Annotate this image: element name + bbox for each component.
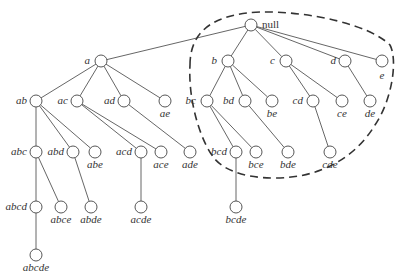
node-label: ce bbox=[337, 107, 347, 119]
node-label: abcde bbox=[23, 261, 49, 273]
node-circle-icon bbox=[30, 95, 42, 107]
edge-b-be bbox=[232, 65, 267, 97]
node-circle-icon bbox=[364, 95, 376, 107]
edge-c-ce bbox=[291, 64, 337, 97]
node-circle-icon bbox=[159, 95, 171, 107]
node-circle-icon bbox=[85, 201, 97, 213]
node-label: acde bbox=[131, 213, 152, 225]
tree-node-abcde: abcde bbox=[23, 249, 49, 273]
edge-bc-bce bbox=[211, 105, 252, 147]
node-label: bde bbox=[280, 158, 296, 170]
edge-ad-ade bbox=[129, 105, 186, 149]
node-circle-icon bbox=[250, 146, 262, 158]
node-label: c bbox=[270, 54, 275, 66]
node-label: ae bbox=[160, 107, 171, 119]
edge-null-a bbox=[107, 26, 245, 59]
tree-node-abe: abe bbox=[87, 146, 103, 170]
tree-node-cde: cde bbox=[322, 146, 337, 170]
node-label: ade bbox=[182, 158, 198, 170]
node-circle-icon bbox=[67, 146, 79, 158]
edge-a-ab bbox=[41, 64, 96, 98]
edge-b-bc bbox=[210, 66, 225, 95]
tree-node-ad: ad bbox=[104, 94, 130, 107]
tree-node-abcd: abcd bbox=[6, 200, 42, 213]
edge-b-bd bbox=[230, 67, 242, 96]
tree-node-ace: ace bbox=[153, 146, 168, 170]
node-label: ace bbox=[153, 158, 168, 170]
node-label: ab bbox=[16, 94, 28, 106]
tree-node-abc: abc bbox=[11, 145, 42, 158]
tree-node-bce: bce bbox=[248, 146, 263, 170]
node-circle-icon bbox=[307, 95, 319, 107]
edge-null-c bbox=[255, 29, 282, 56]
edge-ac-acd bbox=[82, 105, 137, 149]
node-label: cd bbox=[293, 94, 304, 106]
tree-node-acde: acde bbox=[131, 201, 152, 225]
enumeration-tree-diagram: nullabcdeabacadaebcbdbecdcedeabcabdabeac… bbox=[0, 0, 401, 280]
node-label: ac bbox=[58, 94, 69, 106]
tree-node-bd: bd bbox=[223, 94, 251, 107]
tree-node-d: d bbox=[331, 54, 352, 67]
node-label: bce bbox=[248, 158, 263, 170]
node-label: acd bbox=[116, 145, 132, 157]
node-circle-icon bbox=[30, 146, 42, 158]
tree-node-be: be bbox=[266, 95, 278, 119]
tree-node-bde: bde bbox=[280, 146, 296, 170]
node-label: bd bbox=[223, 94, 235, 106]
node-circle-icon bbox=[89, 146, 101, 158]
tree-node-abce: abce bbox=[51, 201, 72, 225]
node-circle-icon bbox=[230, 146, 242, 158]
tree-node-acd: acd bbox=[116, 145, 147, 158]
tree-node-b: b bbox=[212, 54, 235, 67]
edge-d-de bbox=[348, 66, 367, 96]
node-circle-icon bbox=[222, 55, 234, 67]
node-label: bc bbox=[186, 94, 197, 106]
node-circle-icon bbox=[184, 146, 196, 158]
node-label: abe bbox=[87, 158, 103, 170]
nodes-group: nullabcdeabacadaebcbdbecdcedeabcabdabeac… bbox=[6, 18, 388, 273]
edge-null-b bbox=[231, 30, 248, 56]
tree-node-abde: abde bbox=[80, 201, 102, 225]
node-label: abd bbox=[48, 145, 65, 157]
node-circle-icon bbox=[30, 249, 42, 261]
tree-node-cd: cd bbox=[293, 94, 319, 107]
tree-node-bcde: bcde bbox=[226, 201, 247, 225]
node-circle-icon bbox=[95, 55, 107, 67]
node-circle-icon bbox=[336, 95, 348, 107]
node-label: bcde bbox=[226, 213, 247, 225]
node-label: e bbox=[380, 69, 385, 81]
node-circle-icon bbox=[55, 201, 67, 213]
node-label: ad bbox=[104, 94, 116, 106]
node-circle-icon bbox=[339, 55, 351, 67]
node-label: a bbox=[85, 54, 91, 66]
tree-svg: nullabcdeabacadaebcbdbecdcedeabcabdabeac… bbox=[0, 0, 401, 280]
node-circle-icon bbox=[280, 55, 292, 67]
node-label: abc bbox=[11, 145, 27, 157]
edge-ac-ace bbox=[82, 104, 156, 149]
node-circle-icon bbox=[201, 95, 213, 107]
edge-abc-abce bbox=[38, 157, 58, 201]
node-label: abce bbox=[51, 213, 72, 225]
node-circle-icon bbox=[324, 146, 336, 158]
node-circle-icon bbox=[239, 95, 251, 107]
node-circle-icon bbox=[282, 146, 294, 158]
tree-node-a: a bbox=[85, 54, 108, 67]
tree-node-bcd: bcd bbox=[211, 145, 242, 158]
node-circle-icon bbox=[266, 95, 278, 107]
edge-bc-bcd bbox=[210, 106, 233, 147]
node-label: d bbox=[331, 54, 337, 66]
node-circle-icon bbox=[376, 55, 388, 67]
node-circle-icon bbox=[155, 146, 167, 158]
node-circle-icon bbox=[30, 201, 42, 213]
node-circle-icon bbox=[118, 95, 130, 107]
tree-node-ac: ac bbox=[58, 94, 83, 107]
node-circle-icon bbox=[135, 201, 147, 213]
node-label: cde bbox=[322, 158, 337, 170]
edge-a-ad bbox=[104, 66, 121, 96]
node-label: abcd bbox=[6, 200, 28, 212]
node-circle-icon bbox=[71, 95, 83, 107]
node-circle-icon bbox=[245, 19, 257, 31]
edge-cd-cde bbox=[315, 107, 328, 147]
tree-node-e: e bbox=[376, 55, 388, 81]
node-circle-icon bbox=[135, 146, 147, 158]
